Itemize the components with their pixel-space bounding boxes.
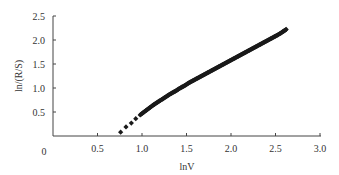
y-tick-label: 0.5	[33, 107, 46, 118]
x-tick-label: 1.5	[180, 143, 193, 154]
data-point-marker	[123, 124, 128, 129]
data-point-marker	[118, 130, 123, 135]
y-tick-label: 2.0	[33, 35, 46, 46]
data-point-marker	[129, 120, 134, 125]
x-tick-label: 0.5	[91, 143, 104, 154]
data-points	[118, 27, 289, 135]
y-axis-label: ln/(R/S)	[13, 60, 25, 92]
y-tick-label: 1.5	[33, 59, 46, 70]
chart-canvas: 0.51.01.52.02.53.0 0.51.01.52.02.5 0 lnV…	[0, 0, 339, 175]
x-tick-label: 1.0	[136, 143, 149, 154]
origin-label: 0	[42, 146, 47, 157]
x-tick-label: 3.0	[314, 143, 327, 154]
x-tick-label: 2.5	[269, 143, 282, 154]
y-tick-label: 1.0	[33, 83, 46, 94]
y-axis-ticks: 0.51.01.52.02.5	[33, 11, 57, 118]
y-tick-label: 2.5	[33, 11, 46, 22]
x-tick-label: 2.0	[225, 143, 238, 154]
data-point-marker	[133, 116, 138, 121]
x-axis-label: lnV	[180, 161, 196, 172]
